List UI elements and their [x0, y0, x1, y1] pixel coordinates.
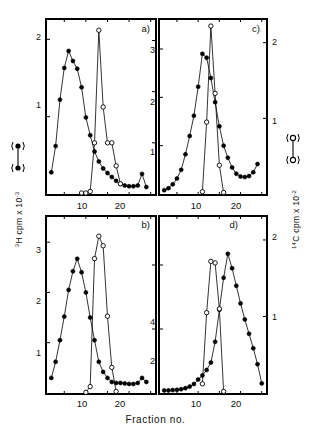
- panel-d-xtick-20: 20: [228, 399, 244, 408]
- y-axis-right-exponent: -2: [291, 190, 297, 196]
- panel-c-ytick-left-2: 2: [143, 98, 155, 107]
- caption-fragment: [6, 434, 306, 441]
- panel-a-plot: [45, 18, 157, 196]
- panel-c: c): [158, 18, 268, 196]
- y-axis-right-isotope-superscript: 14: [291, 242, 297, 249]
- y-axis-right-text: C cpm x 10: [291, 196, 301, 242]
- panel-b-xtick-10: 10: [74, 399, 90, 408]
- panel-b-ytick-left-3: 3: [29, 246, 41, 255]
- panel-d-ytick-right-1: 1: [272, 313, 284, 322]
- y-axis-label-right: 14C cpm x 10-2: [291, 164, 302, 274]
- panel-d: d): [158, 215, 268, 395]
- y-axis-left-text: H cpm x 10: [14, 198, 24, 244]
- legend-open-circle-icon: [286, 132, 300, 166]
- panel-b-plot: [45, 215, 157, 395]
- panel-d-plot: [158, 215, 268, 395]
- y-axis-label-left: 3H cpm x 10-3: [14, 164, 25, 274]
- panel-a: a): [45, 18, 157, 196]
- panel-b-ytick-left-2: 2: [29, 297, 41, 306]
- panel-d-letter: d): [230, 219, 238, 230]
- panel-c-ytick-left-1: 1: [143, 148, 155, 157]
- panel-c-xtick-20: 20: [228, 201, 244, 210]
- panel-c-ytick-left-3: 3: [143, 46, 155, 55]
- panel-b-letter: b): [142, 219, 150, 230]
- panel-a-ytick-left-2: 2: [29, 33, 41, 42]
- panel-c-xtick-10: 10: [188, 201, 204, 210]
- panel-c-ytick-right-2: 2: [272, 38, 284, 47]
- panel-d-ytick-left-4: 4: [143, 318, 155, 327]
- y-axis-left-exponent: -3: [14, 192, 20, 198]
- panel-a-letter: a): [142, 23, 150, 34]
- panel-a-xtick-20: 20: [112, 201, 128, 210]
- panel-d-xtick-10: 10: [188, 399, 204, 408]
- panel-b-ytick-left-1: 1: [29, 349, 41, 358]
- panel-a-xtick-10: 10: [74, 201, 90, 210]
- panel-d-ytick-right-2: 2: [272, 233, 284, 242]
- panel-c-plot: [158, 18, 268, 196]
- y-axis-left-isotope-superscript: 3: [14, 244, 20, 248]
- panel-b-xtick-20: 20: [112, 399, 128, 408]
- panel-a-ytick-left-1: 1: [29, 101, 41, 110]
- panel-b: b): [45, 215, 157, 395]
- panel-d-ytick-left-2: 2: [143, 357, 155, 366]
- panel-c-ytick-right-1: 1: [272, 117, 284, 126]
- x-axis-label: Fraction no.: [0, 414, 311, 425]
- panel-c-letter: c): [252, 23, 260, 34]
- figure-root: 3H cpm x 10-3 14C cpm x 10-2 a) c) b): [0, 0, 311, 442]
